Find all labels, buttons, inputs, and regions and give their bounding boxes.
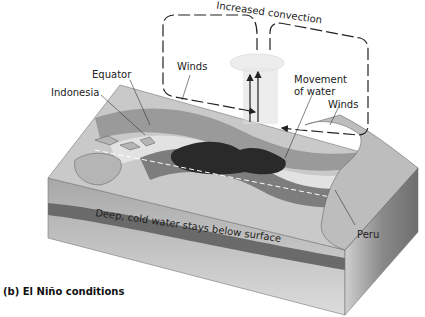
label-equator: Equator [92, 70, 131, 80]
el-nino-block-diagram [0, 0, 425, 317]
label-indonesia: Indonesia [51, 88, 99, 98]
label-winds-left: Winds [177, 62, 207, 72]
label-winds-right: Winds [328, 100, 358, 110]
label-movement-of-water-2: of water [294, 87, 335, 97]
convection-cloud [230, 54, 284, 124]
label-movement-of-water-1: Movement [294, 75, 347, 85]
label-peru: Peru [357, 230, 379, 240]
figure-caption: (b) El Niño conditions [3, 286, 124, 297]
